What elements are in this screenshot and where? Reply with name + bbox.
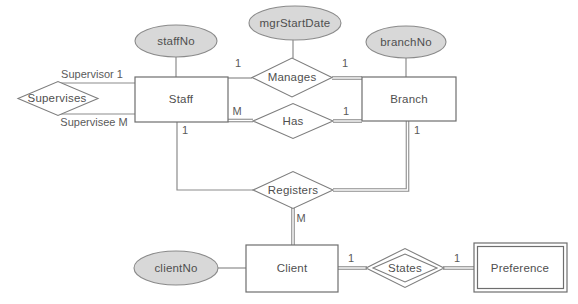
relationship-registers-label: Registers	[268, 184, 318, 196]
attribute-mgrstartdate-label: mgrStartDate	[260, 17, 331, 29]
cardinality-registers-client: M	[296, 212, 305, 224]
relationship-states-label: States	[388, 262, 422, 274]
cardinality-has-branch: 1	[343, 105, 349, 117]
cardinality-staff-has: M	[232, 105, 241, 117]
er-diagram: Staff Branch Client Preference staffNo m…	[0, 0, 578, 304]
cardinality-supervisor: Supervisor 1	[61, 68, 123, 80]
cardinality-supervisee: Supervisee M	[60, 116, 127, 128]
connector-core	[333, 121, 408, 190]
cardinality-staff-registers: 1	[182, 124, 188, 136]
cardinality-states-preference: 1	[454, 252, 460, 264]
relationship-manages-label: Manages	[268, 71, 317, 83]
attribute-clientno-label: clientNo	[154, 262, 197, 274]
cardinality-branch-registers: 1	[414, 124, 420, 136]
entity-client-label: Client	[277, 262, 308, 274]
attribute-branchno-label: branchNo	[380, 36, 431, 48]
er-diagram-canvas: Staff Branch Client Preference staffNo m…	[0, 0, 578, 304]
connector-staff-registers	[177, 122, 253, 190]
attribute-staffno-label: staffNo	[157, 35, 195, 47]
relationship-supervises-label: Supervises	[28, 92, 87, 104]
entity-branch-label: Branch	[390, 93, 428, 105]
cardinality-manages-branch: 1	[342, 57, 348, 69]
relationship-has-label: Has	[282, 115, 303, 127]
cardinality-client-states: 1	[348, 252, 354, 264]
cardinality-staff-manages: 1	[235, 57, 241, 69]
connector-branch-registers	[333, 121, 408, 190]
entity-preference-label: Preference	[491, 262, 549, 274]
entity-staff-label: Staff	[169, 93, 194, 105]
